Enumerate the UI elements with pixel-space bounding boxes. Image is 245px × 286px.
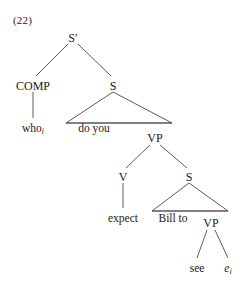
leaf-who-text: who xyxy=(22,122,42,134)
edge-vp-matrix-to-s-embedded xyxy=(160,145,187,168)
edge-vp-matrix-to-v xyxy=(126,145,150,168)
node-v: V xyxy=(119,171,128,183)
tree-edges xyxy=(0,0,245,286)
node-s-matrix: S xyxy=(110,80,117,92)
edge-vp-embedded-to-see xyxy=(197,230,207,258)
edge-vp-embedded-to-trace xyxy=(215,230,228,258)
example-number-label: (22) xyxy=(13,14,32,26)
node-vp-matrix: VP xyxy=(147,132,162,144)
node-s-embedded: S xyxy=(186,171,193,183)
leaf-trace-subscript: i xyxy=(229,267,231,276)
leaf-see: see xyxy=(190,262,205,274)
node-s-bar: S′ xyxy=(68,32,77,44)
node-vp-embedded: VP xyxy=(203,217,218,229)
leaf-trace: ei xyxy=(224,262,231,278)
syntax-tree-figure: (22) S′ COMP S VP V S VP whoi do you ex xyxy=(0,0,245,286)
triangle-s-embedded xyxy=(152,183,228,211)
edge-root-to-comp xyxy=(36,44,68,76)
leaf-bill-to: Bill to xyxy=(158,212,187,224)
edge-root-to-s-matrix xyxy=(78,44,111,76)
node-comp: COMP xyxy=(16,80,50,92)
leaf-who: whoi xyxy=(22,122,44,138)
leaf-who-subscript: i xyxy=(42,127,44,136)
triangle-s-matrix xyxy=(66,92,172,123)
leaf-do-you: do you xyxy=(78,122,110,134)
leaf-expect: expect xyxy=(108,212,138,224)
